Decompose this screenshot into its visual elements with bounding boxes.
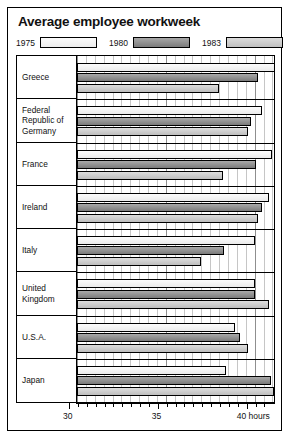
legend-item-1983: 1983 bbox=[202, 36, 283, 49]
bar-group bbox=[77, 272, 274, 317]
category-label-federal-republic-of-germany: Federal Republic of Germany bbox=[17, 99, 77, 143]
bar-1975-united-kingdom bbox=[77, 279, 255, 288]
x-tick-major bbox=[247, 403, 248, 409]
legend-label-1983: 1983 bbox=[202, 38, 221, 48]
category-label-u-s-a: U.S.A. bbox=[17, 316, 77, 359]
bar-group bbox=[77, 359, 274, 402]
x-tick-label-30: 30 bbox=[63, 411, 72, 421]
category-label-united-kingdom: United Kingdom bbox=[17, 272, 77, 316]
x-tick-minor bbox=[140, 403, 141, 407]
bar-1975-japan bbox=[77, 366, 226, 375]
bar-1980-u-s-a bbox=[77, 333, 240, 342]
x-tick-minor bbox=[211, 403, 212, 407]
bar-1983-greece bbox=[77, 84, 219, 93]
x-tick-minor bbox=[256, 403, 257, 407]
x-tick-minor bbox=[193, 403, 194, 407]
bar-1983-u-s-a bbox=[77, 344, 248, 353]
x-tick-minor bbox=[184, 403, 185, 407]
x-tick-minor bbox=[131, 403, 132, 407]
bars-area bbox=[77, 56, 274, 402]
category-label-text: United Kingdom bbox=[17, 283, 77, 304]
legend-swatch-1983 bbox=[226, 37, 283, 48]
x-tick-minor bbox=[105, 403, 106, 407]
bar-1983-united-kingdom bbox=[77, 300, 269, 309]
x-tick-minor bbox=[167, 403, 168, 407]
bar-group bbox=[77, 229, 274, 273]
x-tick-minor bbox=[113, 403, 114, 407]
x-tick-minor bbox=[87, 403, 88, 407]
category-label-text: France bbox=[17, 159, 48, 170]
bar-1975-italy bbox=[77, 236, 255, 245]
bar-1983-federal-republic-of-germany bbox=[77, 127, 248, 136]
bar-1983-italy bbox=[77, 257, 201, 266]
bar-group bbox=[77, 143, 274, 187]
bar-1980-ireland bbox=[77, 203, 262, 212]
legend-label-1975: 1975 bbox=[16, 38, 35, 48]
x-tick-minor bbox=[220, 403, 221, 407]
bar-1980-france bbox=[77, 160, 256, 169]
x-tick-minor bbox=[96, 403, 97, 407]
category-label-japan: Japan bbox=[17, 359, 77, 402]
legend-item-1975: 1975 bbox=[16, 36, 97, 49]
bar-1975-ireland bbox=[77, 193, 269, 202]
legend-swatch-1980 bbox=[133, 37, 190, 48]
bar-group bbox=[77, 99, 274, 144]
x-tick-minor bbox=[229, 403, 230, 407]
x-tick-minor bbox=[176, 403, 177, 407]
bar-group bbox=[77, 186, 274, 230]
chart-card: Average employee workweek 1975 1980 1983… bbox=[7, 7, 282, 431]
category-label-text: Ireland bbox=[17, 202, 47, 213]
bar-1983-japan bbox=[77, 387, 274, 396]
plot-area: GreeceFederal Republic of GermanyFranceI… bbox=[16, 55, 275, 403]
category-label-italy: Italy bbox=[17, 229, 77, 272]
legend-swatch-1975 bbox=[40, 37, 97, 48]
x-tick-minor bbox=[149, 403, 150, 407]
bar-1983-france bbox=[77, 171, 223, 180]
bar-1983-ireland bbox=[77, 214, 258, 223]
page-title: Average employee workweek bbox=[18, 14, 200, 29]
category-label-ireland: Ireland bbox=[17, 186, 77, 229]
x-tick-major bbox=[158, 403, 159, 409]
legend-label-1980: 1980 bbox=[109, 38, 128, 48]
x-tick-label-40: 40 hours bbox=[237, 411, 270, 421]
category-label-france: France bbox=[17, 143, 77, 186]
chart-legend: 1975 1980 1983 bbox=[16, 36, 275, 50]
bar-1975-greece bbox=[77, 63, 274, 72]
x-tick-minor bbox=[202, 403, 203, 407]
bar-1980-united-kingdom bbox=[77, 290, 255, 299]
bar-1980-federal-republic-of-germany bbox=[77, 117, 251, 126]
x-tick-major bbox=[69, 403, 70, 409]
bar-1980-japan bbox=[77, 376, 271, 385]
bar-group bbox=[77, 56, 274, 100]
x-tick-minor bbox=[78, 403, 79, 407]
category-label-text: Federal Republic of Germany bbox=[17, 105, 77, 137]
bar-1975-france bbox=[77, 150, 272, 159]
legend-item-1980: 1980 bbox=[109, 36, 190, 49]
x-tick-minor bbox=[238, 403, 239, 407]
category-label-text: Italy bbox=[17, 245, 37, 256]
category-label-text: Japan bbox=[17, 375, 45, 386]
category-label-column: GreeceFederal Republic of GermanyFranceI… bbox=[17, 56, 77, 402]
category-label-text: Greece bbox=[17, 72, 49, 83]
category-label-greece: Greece bbox=[17, 56, 77, 99]
bar-group bbox=[77, 316, 274, 360]
bar-1975-u-s-a bbox=[77, 323, 235, 332]
category-label-text: U.S.A. bbox=[17, 332, 46, 343]
x-tick-minor bbox=[264, 403, 265, 407]
bar-1980-greece bbox=[77, 73, 258, 82]
x-tick-label-35: 35 bbox=[152, 411, 161, 421]
x-tick-minor bbox=[122, 403, 123, 407]
bar-1980-italy bbox=[77, 246, 224, 255]
bar-1975-federal-republic-of-germany bbox=[77, 106, 262, 115]
